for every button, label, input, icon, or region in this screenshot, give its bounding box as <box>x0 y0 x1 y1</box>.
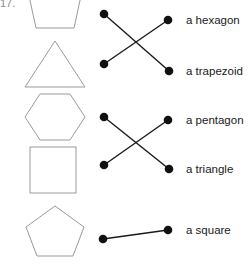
connection-line-square[interactable] <box>103 230 168 239</box>
connection-line-pentagon[interactable] <box>104 120 168 165</box>
right-dot-2[interactable] <box>165 67 174 76</box>
left-dot-2[interactable] <box>100 60 109 69</box>
label-trapezoid: a trapezoid <box>186 65 243 78</box>
left-dot-5[interactable] <box>99 235 108 244</box>
connection-line-hexagon[interactable] <box>104 20 168 64</box>
left-dot-1[interactable] <box>100 10 109 19</box>
left-dot-4[interactable] <box>100 161 109 170</box>
right-dot-4[interactable] <box>165 165 174 174</box>
right-dot-5[interactable] <box>164 226 173 235</box>
connection-lines <box>103 14 169 239</box>
label-square: a square <box>186 224 231 237</box>
label-hexagon: a hexagon <box>186 14 240 27</box>
left-dot-3[interactable] <box>100 113 109 122</box>
right-dot-1[interactable] <box>164 16 173 25</box>
right-endpoint-dots <box>164 16 174 235</box>
label-pentagon: a pentagon <box>186 114 244 127</box>
left-endpoint-dots <box>99 10 109 244</box>
matching-worksheet: 17. <box>0 0 251 274</box>
label-triangle: a triangle <box>186 163 233 176</box>
right-dot-3[interactable] <box>164 116 173 125</box>
